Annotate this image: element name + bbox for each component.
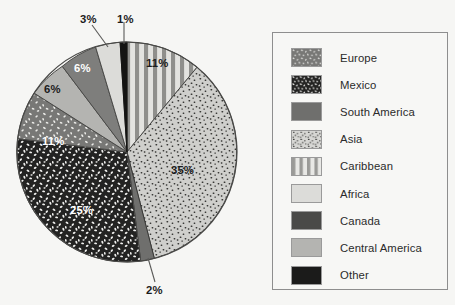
south-america-swatch xyxy=(291,102,322,121)
legend-label-asia: Asia xyxy=(340,133,362,145)
pie-label-other: 1% xyxy=(117,13,134,25)
pie-label-mexico: 25% xyxy=(70,204,93,216)
mexico-swatch xyxy=(291,75,322,94)
legend-label-other: Other xyxy=(340,269,369,281)
leader-line-africa xyxy=(92,25,108,47)
pie-label-central-america: 6% xyxy=(44,83,61,95)
legend-item-list: Europe Mexico South America Asia xyxy=(291,44,439,289)
legend-label-canada: Canada xyxy=(340,215,380,227)
legend-item-central-america[interactable]: Central America xyxy=(291,234,439,261)
legend-item-canada[interactable]: Canada xyxy=(291,207,439,234)
other-swatch xyxy=(291,266,322,285)
legend-label-central-america: Central America xyxy=(340,242,422,254)
legend-label-caribbean: Caribbean xyxy=(340,160,393,172)
pie-label-asia: 35% xyxy=(171,164,194,176)
pie-label-caribbean: 11% xyxy=(146,57,168,69)
legend-item-asia[interactable]: Asia xyxy=(291,126,439,153)
pie-label-europe: 11% xyxy=(42,135,64,147)
pie-slice-mexico[interactable] xyxy=(17,139,141,262)
pie-label-south-america: 2% xyxy=(146,284,163,296)
legend-item-south-america[interactable]: South America xyxy=(291,98,439,125)
pie-label-africa: 3% xyxy=(80,13,97,25)
leader-line-south-america xyxy=(148,258,155,282)
asia-swatch xyxy=(291,130,322,149)
legend-item-africa[interactable]: Africa xyxy=(291,180,439,207)
chart-legend: Europe Mexico South America Asia xyxy=(272,32,448,290)
legend-label-africa: Africa xyxy=(340,188,369,200)
caribbean-swatch xyxy=(291,157,322,176)
legend-label-mexico: Mexico xyxy=(340,79,376,91)
pie-slices xyxy=(17,42,237,262)
legend-item-caribbean[interactable]: Caribbean xyxy=(291,153,439,180)
europe-swatch xyxy=(291,48,322,67)
central-america-swatch xyxy=(291,238,322,257)
legend-item-other[interactable]: Other xyxy=(291,262,439,289)
canada-swatch xyxy=(291,211,322,230)
legend-label-south-america: South America xyxy=(340,106,415,118)
pie-chart-figure: 11% 35% 2% 25% 11% 6% 6% 3% 1% Europe Me… xyxy=(0,0,455,305)
legend-label-europe: Europe xyxy=(340,52,377,64)
legend-item-europe[interactable]: Europe xyxy=(291,44,439,71)
legend-item-mexico[interactable]: Mexico xyxy=(291,71,439,98)
africa-swatch xyxy=(291,184,322,203)
pie-label-canada: 6% xyxy=(74,62,91,74)
